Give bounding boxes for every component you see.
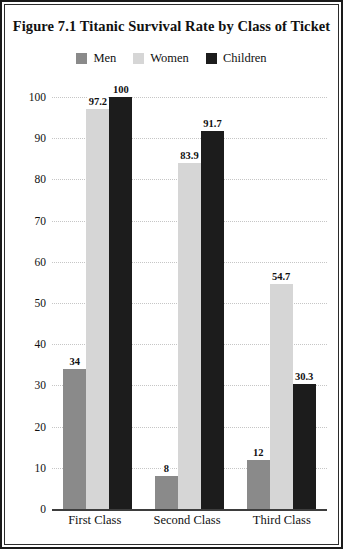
x-axis-category-label: Third Class [253, 513, 311, 528]
bar-cluster: 3497.2100 [63, 97, 132, 509]
legend-swatch-men-icon [76, 53, 87, 64]
legend-item-women: Women [133, 52, 189, 65]
bar-men-first-class: 34 [63, 97, 86, 509]
bar-value-label: 34 [69, 356, 82, 367]
bar-value-label: 83.9 [179, 150, 199, 161]
bar-men-third-class: 12 [247, 97, 270, 509]
y-axis-tick-label: 40 [35, 338, 47, 350]
bar-children-first-class: 100 [109, 97, 132, 509]
bar [270, 284, 293, 509]
legend-label: Children [223, 52, 267, 65]
bar-value-label: 30.3 [294, 371, 314, 382]
y-axis-tick-label: 100 [29, 91, 46, 103]
bar [178, 163, 201, 509]
bar [109, 97, 132, 509]
y-axis-tick-label: 70 [35, 215, 47, 227]
y-axis-tick-label: 90 [35, 132, 47, 144]
legend-label: Women [150, 52, 189, 65]
legend-label: Men [93, 52, 116, 65]
bar-men-second-class: 8 [155, 97, 178, 509]
x-axis-category-label: Second Class [154, 513, 221, 528]
figure-frame: Figure 7.1 Titanic Survival Rate by Clas… [4, 4, 339, 545]
bar [155, 476, 178, 509]
legend-item-men: Men [76, 52, 116, 65]
legend-swatch-women-icon [133, 53, 144, 64]
bar-clusters: 3497.2100883.991.71254.730.3 [52, 97, 327, 509]
axis-baseline [52, 509, 327, 511]
x-axis-category-label: First Class [68, 513, 121, 528]
y-axis-tick-label: 30 [35, 379, 47, 391]
bar-value-label: 97.2 [88, 96, 108, 107]
bar [201, 131, 224, 509]
bar-women-first-class: 97.2 [86, 97, 109, 509]
bar [293, 384, 316, 509]
figure-title: Figure 7.1 Titanic Survival Rate by Clas… [5, 18, 338, 35]
legend-item-children: Children [206, 52, 267, 65]
bar-women-second-class: 83.9 [178, 97, 201, 509]
bar-value-label: 91.7 [202, 118, 222, 129]
bar-value-label: 100 [112, 84, 130, 95]
y-axis-tick-label: 0 [40, 503, 46, 515]
bar [86, 109, 109, 509]
bar-value-label: 8 [163, 463, 170, 474]
bar [63, 369, 86, 509]
bar-children-second-class: 91.7 [201, 97, 224, 509]
bar [247, 460, 270, 509]
y-axis-labels: 0102030405060708090100 [5, 97, 46, 509]
bar-cluster: 1254.730.3 [247, 97, 316, 509]
y-axis-tick-label: 80 [35, 173, 47, 185]
bar-value-label: 12 [252, 447, 265, 458]
y-axis-tick-label: 10 [35, 462, 47, 474]
bar-women-third-class: 54.7 [270, 97, 293, 509]
plot-area: 3497.2100883.991.71254.730.3 [52, 97, 327, 509]
x-axis-labels: First ClassSecond ClassThird Class [52, 513, 327, 528]
y-axis-tick-label: 50 [35, 297, 47, 309]
y-axis-tick-label: 60 [35, 256, 47, 268]
legend-swatch-children-icon [206, 53, 217, 64]
chart-legend: MenWomenChildren [5, 52, 338, 65]
bar-children-third-class: 30.3 [293, 97, 316, 509]
y-axis-tick-label: 20 [35, 421, 47, 433]
bar-value-label: 54.7 [271, 271, 291, 282]
bar-cluster: 883.991.7 [155, 97, 224, 509]
figure-container: Figure 7.1 Titanic Survival Rate by Clas… [0, 0, 343, 549]
